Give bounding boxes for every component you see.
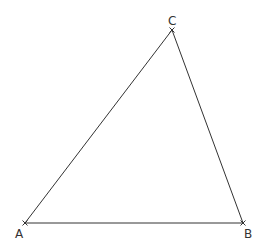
vertex-label-b: B — [244, 227, 252, 241]
vertex-mark-c-icon — [170, 28, 175, 33]
edge-BC — [172, 30, 243, 223]
vertex-label-c: C — [168, 14, 176, 28]
vertex-label-a: A — [15, 227, 24, 241]
diagram-canvas: ABC — [0, 0, 266, 250]
vertex-marks — [23, 28, 246, 226]
edge-CA — [25, 30, 172, 223]
triangle-diagram: ABC — [0, 0, 266, 250]
triangle-edges — [25, 30, 243, 223]
vertex-labels: ABC — [15, 14, 252, 241]
